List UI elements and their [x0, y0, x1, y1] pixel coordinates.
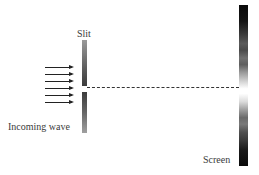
slit-barrier-bottom: [82, 92, 87, 133]
detection-screen: [239, 5, 248, 166]
slit-label: Slit: [77, 29, 91, 39]
center-axis-dashed-line: [87, 87, 239, 88]
screen-label: Screen: [203, 155, 230, 165]
arrow-right-icon: [45, 95, 72, 96]
incoming-wave-label: Incoming wave: [8, 122, 70, 132]
arrow-right-icon: [45, 102, 72, 103]
slit-barrier-top: [82, 40, 87, 86]
arrow-right-icon: [45, 88, 72, 89]
arrow-right-icon: [45, 74, 72, 75]
arrow-right-icon: [45, 81, 72, 82]
arrow-right-icon: [45, 67, 72, 68]
